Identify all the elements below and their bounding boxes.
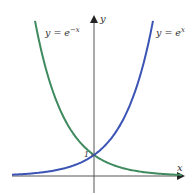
y-axis-label: y: [99, 13, 106, 24]
exponential-chart: 1 y x y = e−x y = ex: [0, 0, 193, 195]
label-e-x-base: y = e: [155, 27, 181, 38]
curve-e-neg-x: [35, 21, 182, 175]
label-e-neg-x-exponent: −x: [70, 26, 80, 34]
y-intercept-label: 1: [84, 150, 89, 159]
label-e-x: y = ex: [155, 26, 185, 38]
label-e-neg-x-base: y = e: [44, 27, 70, 38]
curve-e-x: [12, 21, 153, 175]
label-e-x-exponent: x: [181, 26, 185, 34]
x-axis-label: x: [177, 162, 183, 173]
label-e-neg-x: y = e−x: [44, 26, 80, 38]
